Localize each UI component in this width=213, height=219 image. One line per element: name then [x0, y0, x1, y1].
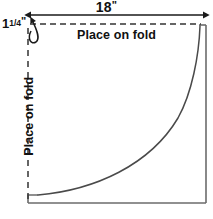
corner-dimension-label: 11/4"	[2, 16, 26, 30]
width-unit: "	[112, 0, 117, 11]
pattern-diagram: 18" 11/4" Place on fold Place on fold	[0, 0, 213, 219]
width-value: 18	[96, 0, 112, 15]
fold-label-left: Place on fold	[23, 61, 36, 171]
pattern-curve	[38, 26, 200, 195]
corner-numerator: 1	[9, 18, 14, 28]
fold-lines-group	[28, 24, 201, 199]
curved-cut-line-group	[38, 26, 200, 195]
fold-label-top: Place on fold	[30, 29, 203, 42]
corner-unit: "	[21, 15, 26, 27]
corner-fraction: 1/4	[9, 18, 21, 28]
width-dimension-label: 18"	[0, 0, 213, 14]
pattern-notch-bottom-left	[28, 195, 38, 203]
